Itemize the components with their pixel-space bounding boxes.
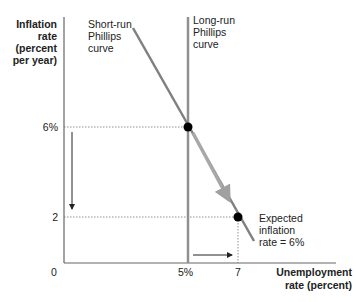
x-tick-5: 5% [178,266,193,278]
point-b [234,213,243,222]
y-tick-6: 6% [20,121,58,133]
y-label-line: Inflation [0,18,57,30]
y-label-line: rate [0,30,57,42]
short-run-line: Short-run [88,18,132,30]
long-run-line: Phillips [193,26,235,38]
short-run-line: curve [88,42,132,54]
origin-label: 0 [51,266,57,278]
long-run-line: Long-run [193,14,235,26]
long-run-line: curve [193,38,235,50]
y-axis-label: Inflation rate (percent per year) [0,18,57,66]
annotation-line: Expected [259,212,304,224]
y-tick-2: 2 [20,211,58,223]
x-tick-7: 7 [235,266,241,278]
x-axis-label: Unemployment rate (percent) [256,266,352,292]
short-run-line: Phillips [88,30,132,42]
annotation-line: inflation [259,224,304,236]
movement-arrow [193,133,229,200]
long-run-label: Long-run Phillips curve [193,14,235,50]
y-label-line: (percent [0,42,57,54]
x-label-line: Unemployment [256,266,352,279]
x-label-line: rate (percent) [256,279,352,292]
annotation-line: rate = 6% [259,236,304,248]
y-label-line: per year) [0,54,57,66]
short-run-label: Short-run Phillips curve [88,18,132,54]
expected-inflation-annotation: Expected inflation rate = 6% [259,212,304,248]
point-a [184,123,193,132]
